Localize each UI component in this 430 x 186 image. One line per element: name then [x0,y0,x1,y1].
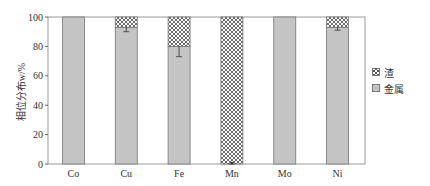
y-axis-label: 相位分布w/% [13,63,28,121]
bar-metal-fe [168,46,190,164]
y-tick-label: 0 [38,159,43,170]
x-tick-label-co: Co [68,168,80,179]
y-tick-label: 20 [33,129,43,140]
x-tick-label-mo: Mo [278,168,292,179]
bar-slag-cu [115,17,137,27]
x-tick-label-ni: Ni [333,168,343,179]
plot-area: 020406080100CoCuFeMnMoNi [28,12,365,180]
legend-label-slag: 渣 [384,65,394,80]
slag-swatch-icon [372,68,380,76]
y-tick-label: 100 [28,12,43,23]
metal-swatch-icon [372,84,380,92]
x-tick-label-fe: Fe [174,168,185,179]
bar-metal-co [62,17,84,164]
legend-item-metal: 金属 [372,80,404,96]
bar-slag-mn [221,17,243,164]
y-tick-label: 80 [33,41,43,52]
stacked-bar-chart: 020406080100CoCuFeMnMoNi [0,0,430,186]
legend: 渣 金属 [372,64,404,96]
legend-item-slag: 渣 [372,64,404,80]
y-tick-label: 60 [33,70,43,81]
y-tick-label: 40 [33,100,43,111]
x-tick-label-mn: Mn [225,168,239,179]
bar-slag-fe [168,17,190,46]
bar-metal-ni [327,27,349,164]
x-tick-label-cu: Cu [120,168,132,179]
bar-metal-mo [274,17,296,164]
legend-label-metal: 金属 [384,81,404,96]
bar-metal-cu [115,27,137,164]
bar-slag-ni [327,17,349,27]
error-marker [231,162,233,164]
plot-frame [48,17,365,164]
